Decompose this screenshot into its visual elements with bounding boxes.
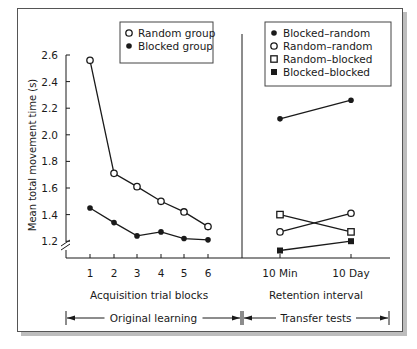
data-point	[134, 233, 140, 239]
arrow-right-icon	[380, 316, 388, 321]
data-point	[134, 183, 140, 189]
legend-label: Blocked group	[138, 40, 213, 52]
data-point	[181, 236, 187, 242]
legend-label: Random–blocked	[283, 53, 372, 65]
legend-marker	[126, 43, 132, 49]
x-tick-label: 10 Day	[332, 267, 369, 279]
arrow-right-icon	[232, 316, 240, 321]
transfer-tests-span-label: Transfer tests	[279, 312, 351, 324]
truncated-caption	[0, 341, 417, 349]
series-line	[90, 60, 208, 226]
original-learning-span-label: Original learning	[110, 312, 197, 324]
legend-marker	[126, 30, 132, 36]
data-point	[111, 220, 117, 226]
data-point	[87, 205, 93, 211]
data-point	[205, 223, 211, 229]
legend-label: Random–random	[283, 40, 372, 52]
y-axis-label: Mean total movement time (s)	[27, 79, 38, 232]
data-point	[205, 237, 211, 243]
x-tick-label: 6	[205, 267, 212, 279]
legend-marker	[271, 30, 277, 36]
y-tick-label: 1.8	[41, 155, 58, 167]
data-point	[87, 57, 93, 63]
legend-marker	[271, 56, 277, 62]
series-line	[90, 208, 208, 240]
x-tick-label: 10 Min	[262, 267, 297, 279]
arrow-left-icon	[67, 316, 75, 321]
data-point	[277, 116, 283, 122]
data-point	[348, 229, 354, 235]
data-point	[277, 211, 283, 217]
y-tick-label: 1.2	[41, 235, 58, 247]
y-tick-label: 2.2	[41, 102, 58, 114]
data-point	[348, 238, 354, 244]
x-tick-label: 1	[87, 267, 94, 279]
x-tick-label: 4	[158, 267, 165, 279]
right-x-axis-label: Retention interval	[269, 289, 363, 301]
data-point	[277, 248, 283, 254]
data-point	[348, 97, 354, 103]
chart-svg: 2.62.42.22.01.81.61.41.2Mean total movem…	[0, 0, 417, 349]
legend-marker	[271, 69, 277, 75]
series-line	[280, 241, 351, 250]
data-point	[158, 198, 164, 204]
y-tick-label: 2.4	[41, 76, 58, 88]
legend-marker	[271, 43, 277, 49]
x-tick-label: 5	[181, 267, 188, 279]
y-tick-label: 1.6	[41, 182, 58, 194]
data-point	[158, 229, 164, 235]
data-point	[111, 170, 117, 176]
legend-label: Random group	[138, 27, 216, 39]
series-line	[280, 100, 351, 119]
data-point	[277, 229, 283, 235]
left-x-axis-label: Acquisition trial blocks	[90, 289, 208, 301]
legend-label: Blocked–random	[283, 27, 370, 39]
data-point	[348, 210, 354, 216]
data-point	[181, 209, 187, 215]
x-tick-label: 3	[134, 267, 141, 279]
y-tick-label: 1.4	[41, 209, 58, 221]
x-tick-label: 2	[111, 267, 118, 279]
y-tick-label: 2.0	[41, 129, 58, 141]
arrow-left-icon	[244, 316, 252, 321]
y-tick-label: 2.6	[41, 49, 58, 61]
legend-label: Blocked–blocked	[283, 66, 370, 78]
